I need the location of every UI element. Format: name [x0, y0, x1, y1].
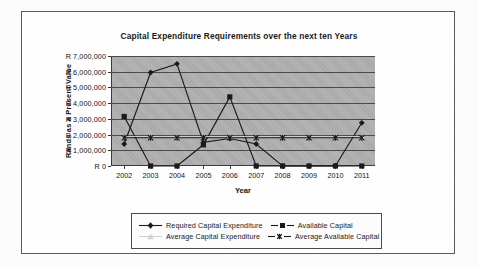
square-data-point — [359, 163, 364, 168]
x-tick-label: 2009 — [301, 171, 317, 180]
x-tick-label: 2006 — [222, 171, 238, 180]
x-tick-label: 2003 — [143, 171, 159, 180]
y-tick-label: R 5,000,000 — [66, 83, 106, 92]
diamond-data-point — [121, 141, 127, 147]
chart-page: Capital Expenditure Requirements over th… — [0, 0, 478, 267]
x-tick-label: 2010 — [327, 171, 343, 180]
chart-legend: Required Capital Expenditure Available C… — [131, 213, 382, 249]
legend-row-1: Required Capital Expenditure Available C… — [138, 221, 375, 230]
x-tick-label: 2002 — [116, 171, 132, 180]
legend-label: Available Capital — [298, 221, 353, 230]
triangle-marker-icon — [138, 232, 163, 241]
legend-label: Required Capital Expenditure — [166, 221, 263, 230]
square-marker-icon — [270, 221, 295, 230]
x-tick-label: 2008 — [275, 171, 291, 180]
diamond-marker-icon — [138, 221, 163, 230]
series-average-available-capital — [122, 135, 365, 141]
y-tick-label: R 4,000,000 — [66, 99, 106, 108]
x-axis-title: Year — [111, 186, 375, 195]
plot-wrap: R 0R 1,000,000R 2,000,000R 3,000,000R 4,… — [111, 56, 375, 166]
square-data-point — [280, 163, 285, 168]
y-tick-label: R 0 — [95, 162, 107, 171]
y-tick-label: R 7,000,000 — [66, 52, 106, 61]
y-tick-label: R 6,000,000 — [66, 67, 106, 76]
diamond-data-point — [359, 120, 365, 126]
square-data-point — [333, 163, 338, 168]
series-required-capital-expenditure — [121, 61, 364, 169]
y-tick-label: R 1,000,000 — [66, 146, 106, 155]
legend-item-available-capital[interactable]: Available Capital — [270, 221, 360, 230]
cross-marker-icon — [267, 232, 292, 241]
legend-row-2: Average Capital Expenditure Average Avai… — [138, 232, 375, 241]
x-tick-label: 2011 — [354, 171, 369, 180]
x-tick-label: 2005 — [195, 171, 211, 180]
legend-label: Average Capital Expenditure — [166, 232, 260, 241]
legend-label: Average Available Capital — [295, 232, 379, 241]
square-data-point — [148, 163, 153, 168]
y-tick-label: R 2,000,000 — [66, 130, 106, 139]
legend-item-required-capital-expenditure[interactable]: Required Capital Expenditure — [138, 221, 270, 230]
square-data-point — [227, 94, 232, 99]
square-data-point — [306, 163, 311, 168]
square-data-point — [122, 114, 127, 119]
chart-title: Capital Expenditure Requirements over th… — [22, 31, 456, 41]
diamond-data-point — [148, 70, 154, 76]
diamond-data-point — [174, 61, 180, 67]
legend-item-average-available-capital[interactable]: Average Available Capital — [267, 232, 386, 241]
x-tick-label: 2004 — [169, 171, 185, 180]
x-tick-label: 2007 — [248, 171, 264, 180]
series-line — [124, 97, 362, 166]
square-data-point — [174, 163, 179, 168]
legend-item-average-capital-expenditure[interactable]: Average Capital Expenditure — [138, 232, 267, 241]
series-line — [124, 64, 362, 166]
square-data-point — [201, 142, 206, 147]
series-available-capital — [122, 94, 365, 168]
square-data-point — [254, 163, 259, 168]
series-layer — [111, 56, 381, 172]
y-tick-label: R 3,000,000 — [66, 114, 106, 123]
